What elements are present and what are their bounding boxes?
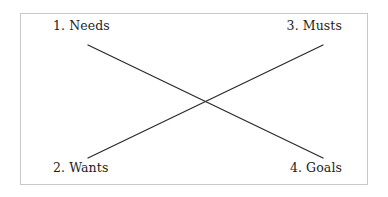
label-wants: 2. Wants <box>53 162 108 175</box>
diagram-root: 1. Needs 3. Musts 2. Wants 4. Goals <box>0 0 388 197</box>
label-goals: 4. Goals <box>290 162 342 175</box>
label-musts: 3. Musts <box>287 20 342 33</box>
label-needs: 1. Needs <box>53 20 110 33</box>
